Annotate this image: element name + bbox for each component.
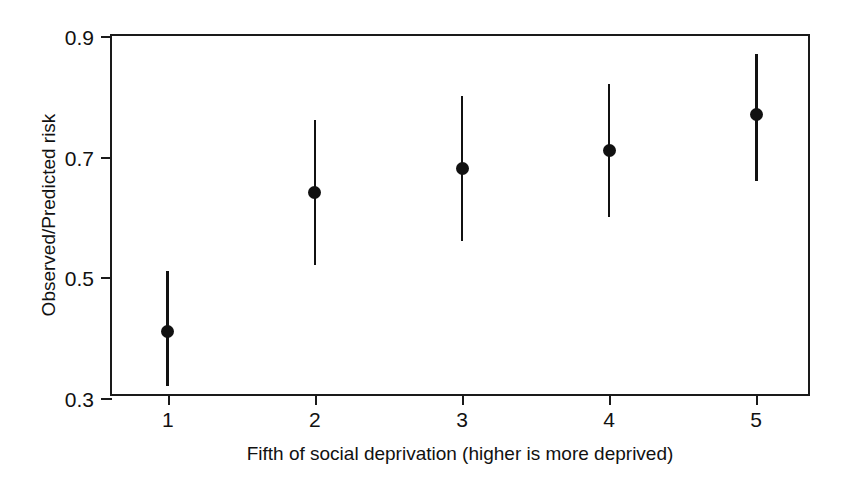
- x-axis-tick: [315, 394, 317, 405]
- y-axis-tick-label: 0.9: [65, 26, 94, 50]
- y-axis-tick: 0.7: [101, 157, 112, 159]
- x-axis-tick-label: 1: [162, 408, 174, 432]
- data-point-marker: [603, 144, 616, 157]
- y-axis-tick-label: 0.5: [65, 267, 94, 291]
- y-axis-tick-label: 0.3: [65, 388, 94, 412]
- data-point-marker: [161, 325, 174, 338]
- x-axis-tick: [462, 394, 464, 405]
- x-axis-tick: [609, 394, 611, 405]
- x-axis-tick-label: 5: [750, 408, 762, 432]
- data-point-marker: [456, 162, 469, 175]
- x-axis-title: Fifth of social deprivation (higher is m…: [110, 443, 810, 465]
- data-series-layer: [112, 36, 808, 394]
- x-axis-tick: [756, 394, 758, 405]
- data-point-marker: [750, 108, 763, 121]
- y-axis-title: Observed/Predicted risk: [34, 34, 64, 396]
- x-axis-tick-label: 2: [309, 408, 321, 432]
- y-axis-tick: 0.3: [101, 398, 112, 400]
- x-axis-tick-label: 4: [603, 408, 615, 432]
- x-axis-tick-label: 3: [456, 408, 468, 432]
- data-point-marker: [308, 186, 321, 199]
- chart-figure: 0.90.70.50.3 12345 Observed/Predicted ri…: [0, 0, 850, 484]
- y-axis-tick: 0.9: [101, 36, 112, 38]
- y-axis-tick: 0.5: [101, 277, 112, 279]
- y-axis-tick-label: 0.7: [65, 147, 94, 171]
- x-axis-tick: [168, 394, 170, 405]
- plot-area: 0.90.70.50.3 12345: [110, 34, 810, 396]
